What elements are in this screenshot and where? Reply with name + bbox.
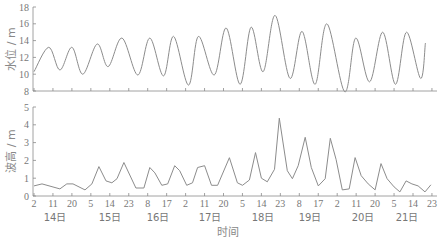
x-tick-label: 23 <box>275 198 285 209</box>
x-tick-label: 17 <box>162 198 172 209</box>
day-label: 19日 <box>299 212 322 223</box>
x-tick-label: 14 <box>105 198 115 209</box>
water-level-y-tick-label: 18 <box>19 2 29 13</box>
day-label: 14日 <box>44 212 67 223</box>
day-labels: 14日15日16日17日18日19日20日21日 <box>44 212 419 223</box>
water-level-line <box>34 15 425 91</box>
x-tick-label: 17 <box>313 198 323 209</box>
wave-height-y-ticks: 012345 <box>24 102 36 202</box>
wave-height-y-tick-label: 3 <box>24 137 29 148</box>
water-level-y-tick-label: 8 <box>24 86 29 97</box>
x-tick-label: 11 <box>200 198 210 209</box>
x-tick-label: 23 <box>124 198 134 209</box>
day-label: 16日 <box>147 212 170 223</box>
water-level-y-ticks: 81012141618 <box>19 2 36 97</box>
water-level-y-tick-label: 14 <box>19 35 29 46</box>
x-tick-label: 20 <box>219 198 229 209</box>
water-level-panel: 81012141618 水位 / m <box>4 2 437 97</box>
day-label: 20日 <box>352 212 375 223</box>
x-tick-label: 2 <box>183 198 188 209</box>
wave-height-y-tick-label: 4 <box>24 119 29 130</box>
water-level-y-tick-label: 16 <box>19 18 29 29</box>
wave-height-line <box>34 118 431 192</box>
day-label: 21日 <box>396 212 419 223</box>
wave-height-y-axis-title: 波高 / m <box>4 129 18 172</box>
wave-height-y-tick-label: 1 <box>24 173 29 184</box>
x-tick-label: 5 <box>240 198 245 209</box>
x-tick-label: 23 <box>427 198 437 209</box>
x-tick-label: 20 <box>67 198 77 209</box>
water-level-y-axis-title: 水位 / m <box>4 27 18 70</box>
wave-height-y-tick-label: 2 <box>24 155 29 166</box>
x-tick-label: 11 <box>48 198 58 209</box>
wave-height-y-tick-label: 5 <box>24 102 29 113</box>
x-tick-label: 2 <box>32 198 37 209</box>
day-label: 18日 <box>252 212 275 223</box>
x-tick-label: 2 <box>335 198 340 209</box>
wave-height-x-ticks <box>34 193 432 196</box>
x-axis-title: 时间 <box>217 226 239 239</box>
x-tick-label: 11 <box>351 198 361 209</box>
x-tick-label: 8 <box>145 198 150 209</box>
water-level-y-tick-label: 12 <box>19 52 29 63</box>
water-level-y-tick-label: 10 <box>19 69 29 80</box>
tide-wave-chart: 81012141618 水位 / m 012345 波高 / m 2112051… <box>0 0 443 243</box>
x-tick-labels: 211205142381721120514238172112051423 <box>32 198 437 209</box>
water-level-x-ticks <box>34 88 432 91</box>
x-tick-label: 5 <box>392 198 397 209</box>
day-label: 17日 <box>199 212 222 223</box>
x-tick-label: 5 <box>88 198 93 209</box>
x-tick-label: 14 <box>256 198 266 209</box>
x-tick-label: 14 <box>408 198 418 209</box>
wave-height-panel: 012345 波高 / m <box>4 102 437 202</box>
wave-height-y-tick-label: 0 <box>24 191 29 202</box>
x-tick-label: 8 <box>297 198 302 209</box>
day-label: 15日 <box>99 212 122 223</box>
x-tick-label: 20 <box>370 198 380 209</box>
